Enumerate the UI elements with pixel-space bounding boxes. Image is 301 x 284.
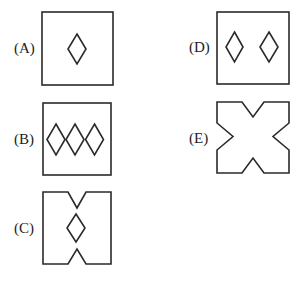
diamond-shape: [68, 34, 86, 64]
diamond-shape: [260, 32, 278, 62]
option-d-figure: [217, 12, 289, 84]
figure-canvas: [0, 0, 301, 284]
option-b-figure: [43, 103, 111, 175]
notched-square-outline: [43, 192, 111, 264]
option-c-figure: [43, 192, 111, 264]
option-a-figure: [42, 12, 113, 85]
option-e-label: (E): [189, 131, 208, 146]
option-c-label: (C): [14, 221, 34, 236]
option-b-label: (B): [14, 132, 34, 147]
option-d-label: (D): [189, 40, 210, 55]
option-e-figure: [217, 102, 289, 173]
diamond-shape: [47, 124, 65, 155]
diamond-shape: [66, 124, 84, 155]
square-outline: [43, 103, 111, 175]
diamond-shape: [226, 32, 243, 62]
option-a-label: (A): [14, 41, 35, 56]
cross-notched-outline: [217, 102, 289, 173]
answer-options-figure: (A) (B) (C) (D) (E): [0, 0, 301, 284]
diamond-shape: [86, 124, 104, 155]
square-outline: [42, 12, 113, 85]
diamond-shape: [67, 214, 85, 242]
